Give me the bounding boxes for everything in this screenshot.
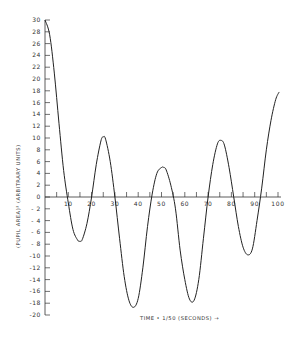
y-tick-label: 6	[37, 158, 41, 165]
y-tick-label: 10	[32, 134, 41, 141]
x-axis-title: TIME • 1/50 (SECONDS) →	[139, 315, 219, 321]
y-tick-label: 8	[37, 146, 41, 153]
pupil-area-chart: 302826242220181614121086420- 2- 4- 6- 8-…	[0, 0, 299, 338]
y-tick-label: 20	[32, 75, 41, 82]
y-tick-label: -10	[29, 252, 41, 259]
x-tick-label: 60	[180, 200, 189, 207]
data-curve	[45, 20, 279, 307]
y-tick-label: 4	[37, 169, 41, 176]
x-tick-label: 20	[87, 200, 96, 207]
y-tick-label: 22	[32, 63, 41, 70]
y-tick-label: - 4	[31, 217, 41, 224]
y-tick-label: 28	[32, 28, 41, 35]
y-tick-label: - 6	[31, 228, 41, 235]
y-axis-title: (PUPIL AREA)² (ARBITRARY UNITS)	[15, 144, 21, 248]
x-tick-label: 50	[157, 200, 166, 207]
y-tick-label: 30	[32, 16, 41, 23]
y-tick-label: 14	[32, 110, 41, 117]
y-tick-label: -14	[29, 276, 41, 283]
y-tick-label: -16	[29, 287, 41, 294]
y-tick-label: 12	[32, 122, 41, 129]
y-tick-label: -12	[29, 264, 41, 271]
y-tick-label: 18	[32, 87, 41, 94]
y-tick-label: -18	[29, 299, 41, 306]
y-tick-label: 26	[32, 40, 41, 47]
y-tick-label: - 8	[31, 240, 41, 247]
y-tick-label: - 2	[31, 205, 41, 212]
y-tick-label: 24	[32, 51, 41, 58]
x-tick-label: 100	[271, 200, 284, 207]
x-tick-label: 90	[250, 200, 259, 207]
x-tick-label: 40	[134, 200, 143, 207]
y-tick-label: 0	[37, 193, 41, 200]
y-tick-label: -20	[29, 311, 41, 318]
y-tick-label: 2	[37, 181, 41, 188]
x-axis: 102030405060708090100	[45, 192, 285, 207]
y-tick-label: 16	[32, 99, 41, 106]
y-axis: 302826242220181614121086420- 2- 4- 6- 8-…	[29, 16, 50, 318]
